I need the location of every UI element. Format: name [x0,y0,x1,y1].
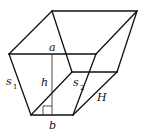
label-h: h [41,76,48,89]
label-s2: s 2 [73,76,84,92]
label-s1: s 1 [6,75,17,91]
svg-text:2: 2 [80,84,84,92]
label-a: a [49,41,56,54]
top-face [9,11,137,54]
svg-text:s: s [6,75,12,88]
prism-diagram: a h b H s 1 s 2 [0,0,143,135]
svg-text:s: s [73,76,79,89]
label-b: b [49,119,56,132]
svg-text:1: 1 [13,83,17,91]
back-edges [52,11,137,72]
label-H: H [96,91,107,104]
